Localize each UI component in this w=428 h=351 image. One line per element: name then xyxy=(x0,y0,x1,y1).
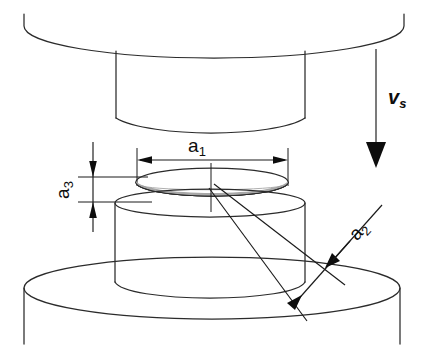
a3-arrow-bottom xyxy=(89,202,97,218)
lower-base-disk xyxy=(24,257,400,344)
upper-punch-cylinder xyxy=(116,51,305,133)
velocity-arrow-vs: vs xyxy=(366,49,406,168)
vs-arrow-head xyxy=(366,142,386,168)
upper-platen-disk xyxy=(24,14,404,58)
diagram-root: a1 a3 xyxy=(0,0,428,351)
label-a1-base: a xyxy=(188,135,199,156)
label-a3: a3 xyxy=(52,181,76,199)
billet-bottom-edge xyxy=(115,282,305,298)
billet-cylinder xyxy=(115,189,305,298)
a2-leader-outer xyxy=(214,184,345,285)
a3-arrow-top xyxy=(89,161,97,177)
a1-arrow-left xyxy=(137,156,152,164)
lower-base-top-face xyxy=(24,257,400,319)
compression-test-diagram: a1 a3 xyxy=(0,0,428,351)
label-a1-sub: 1 xyxy=(199,144,206,159)
a1-arrow-right xyxy=(273,156,288,164)
label-vs: vs xyxy=(388,86,406,111)
label-a3-base: a xyxy=(52,188,73,199)
label-a1: a1 xyxy=(188,135,206,159)
label-a3-sub: 3 xyxy=(61,181,76,188)
label-vs-sub: s xyxy=(399,96,406,111)
